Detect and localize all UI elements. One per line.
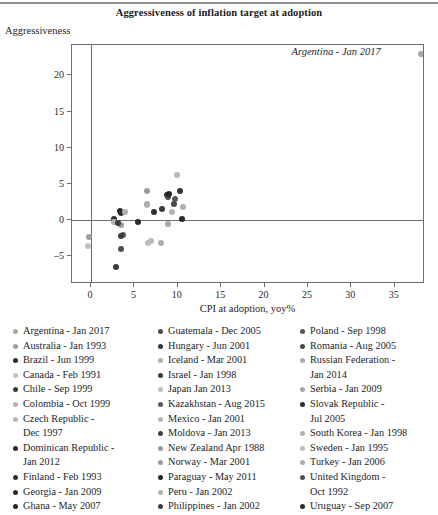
legend-marker-icon bbox=[300, 358, 305, 363]
legend-item-label: Dominican Republic - Jan 2012 bbox=[23, 441, 115, 470]
legend-marker-icon bbox=[300, 446, 305, 451]
legend-column: Guatemala - Dec 2005Hungary - Jun 2001Ic… bbox=[158, 324, 265, 514]
legend-item-label: Uruguay - Sep 2007 bbox=[310, 499, 393, 514]
scatter-point bbox=[177, 188, 183, 194]
legend-marker-icon bbox=[158, 431, 163, 436]
scatter-point bbox=[86, 234, 92, 240]
legend-item[interactable]: Australia - Jan 1993 bbox=[13, 339, 115, 354]
legend-item-label: Japan Jan 2013 bbox=[168, 382, 231, 397]
x-tick-mark bbox=[133, 283, 134, 287]
y-tick-label: 0 bbox=[38, 214, 64, 225]
legend-marker-icon bbox=[158, 417, 163, 422]
x-tick-label: 0 bbox=[75, 289, 105, 300]
legend-marker-icon bbox=[158, 475, 163, 480]
legend-item-label: Norway - Mar 2001 bbox=[168, 455, 250, 470]
legend-item[interactable]: Turkey - Jan 2006 bbox=[300, 455, 407, 470]
legend-item[interactable]: Chile - Sep 1999 bbox=[13, 382, 115, 397]
legend-item[interactable]: Kazakhstan - Aug 2015 bbox=[158, 397, 265, 412]
legend-item[interactable]: Colombia - Oct 1999 bbox=[13, 397, 115, 412]
legend-item[interactable]: Philippines - Jan 2002 bbox=[158, 499, 265, 514]
legend-item[interactable]: Russian Federation - Jan 2014 bbox=[300, 353, 407, 382]
legend-item[interactable]: Finland - Feb 1993 bbox=[13, 470, 115, 485]
legend-item[interactable]: Iceland - Mar 2001 bbox=[158, 353, 265, 368]
x-tick-label: 5 bbox=[118, 289, 148, 300]
legend-item-label: Romania - Aug 2005 bbox=[310, 339, 396, 354]
scatter-point bbox=[179, 216, 185, 222]
legend-marker-icon bbox=[158, 387, 163, 392]
legend-item-label: Chile - Sep 1999 bbox=[23, 382, 93, 397]
x-tick-label: 20 bbox=[249, 289, 279, 300]
legend-marker-icon bbox=[300, 402, 305, 407]
legend-item[interactable]: South Korea - Jan 1998 bbox=[300, 426, 407, 441]
scatter-point bbox=[174, 172, 180, 178]
scatter-point bbox=[171, 201, 177, 207]
legend-marker-icon bbox=[158, 504, 163, 509]
legend-item-label: Israel - Jan 1998 bbox=[168, 368, 236, 383]
x-tick-mark bbox=[350, 283, 351, 287]
y-tick-label: 20 bbox=[38, 69, 64, 80]
legend-item[interactable]: Sweden - Jan 1995 bbox=[300, 441, 407, 456]
legend-marker-icon bbox=[158, 329, 163, 334]
legend-item[interactable]: Czech Republic - Dec 1997 bbox=[13, 412, 115, 441]
legend-marker-icon bbox=[13, 329, 18, 334]
legend-marker-icon bbox=[158, 344, 163, 349]
legend-item[interactable]: Romania - Aug 2005 bbox=[300, 339, 407, 354]
legend-item[interactable]: Brazil - Jun 1999 bbox=[13, 353, 115, 368]
x-tick-mark bbox=[307, 283, 308, 287]
top-rule-divider bbox=[0, 2, 438, 4]
legend-item[interactable]: Moldova - Jan 2013 bbox=[158, 426, 265, 441]
legend-item[interactable]: Hungary - Jun 2001 bbox=[158, 339, 265, 354]
x-tick-label: 30 bbox=[335, 289, 365, 300]
legend-item[interactable]: Norway - Mar 2001 bbox=[158, 455, 265, 470]
legend-item-label: Georgia - Jan 2009 bbox=[23, 485, 101, 500]
legend-marker-icon bbox=[300, 344, 305, 349]
legend-item-label: Kazakhstan - Aug 2015 bbox=[168, 397, 265, 412]
scatter-point bbox=[118, 246, 124, 252]
legend-marker-icon bbox=[13, 373, 18, 378]
legend-item[interactable]: Peru - Jan 2002 bbox=[158, 485, 265, 500]
legend-item[interactable]: Mexico - Jan 2001 bbox=[158, 412, 265, 427]
legend-item-label: Turkey - Jan 2006 bbox=[310, 455, 385, 470]
legend-item[interactable]: Paraguay - May 2011 bbox=[158, 470, 265, 485]
x-tick-label: 25 bbox=[292, 289, 322, 300]
legend-item[interactable]: New Zealand Apr 1988 bbox=[158, 441, 265, 456]
legend-marker-icon bbox=[158, 460, 163, 465]
legend-item[interactable]: Japan Jan 2013 bbox=[158, 382, 265, 397]
legend-marker-icon bbox=[300, 431, 305, 436]
legend-item[interactable]: Canada - Feb 1991 bbox=[13, 368, 115, 383]
legend-marker-icon bbox=[158, 402, 163, 407]
scatter-point bbox=[122, 209, 128, 215]
legend-marker-icon bbox=[13, 344, 18, 349]
y-tick-mark bbox=[67, 147, 71, 148]
legend-item-label: Paraguay - May 2011 bbox=[168, 470, 257, 485]
y-tick-label: 10 bbox=[38, 141, 64, 152]
legend-item[interactable]: Serbia - Jan 2009 bbox=[300, 382, 407, 397]
scatter-point bbox=[113, 264, 119, 270]
legend-marker-icon bbox=[158, 490, 163, 495]
legend-item[interactable]: Poland - Sep 1998 bbox=[300, 324, 407, 339]
x-tick-mark bbox=[394, 283, 395, 287]
scatter-point bbox=[180, 204, 186, 210]
legend-marker-icon bbox=[13, 358, 18, 363]
legend-item[interactable]: Israel - Jan 1998 bbox=[158, 368, 265, 383]
legend-item[interactable]: Dominican Republic - Jan 2012 bbox=[13, 441, 115, 470]
legend-item-label: Hungary - Jun 2001 bbox=[168, 339, 250, 354]
scatter-point bbox=[169, 209, 175, 215]
x-tick-mark bbox=[264, 283, 265, 287]
legend-item[interactable]: Ghana - May 2007 bbox=[13, 499, 115, 514]
legend-item-label: Finland - Feb 1993 bbox=[23, 470, 102, 485]
y-tick-mark bbox=[67, 219, 71, 220]
legend-item-label: Argentina - Jan 2017 bbox=[23, 324, 109, 339]
legend-item[interactable]: Uruguay - Sep 2007 bbox=[300, 499, 407, 514]
legend-item[interactable]: Georgia - Jan 2009 bbox=[13, 485, 115, 500]
legend-item[interactable]: Slovak Republic - Jul 2005 bbox=[300, 397, 407, 426]
legend-item-label: South Korea - Jan 1998 bbox=[310, 426, 407, 441]
legend-item[interactable]: Guatemala - Dec 2005 bbox=[158, 324, 265, 339]
y-tick-mark bbox=[67, 74, 71, 75]
legend-marker-icon bbox=[300, 475, 305, 480]
legend-marker-icon bbox=[300, 329, 305, 334]
legend-item[interactable]: Argentina - Jan 2017 bbox=[13, 324, 115, 339]
legend-item-label: Czech Republic - Dec 1997 bbox=[23, 412, 94, 441]
legend-item[interactable]: United Kingdom - Oct 1992 bbox=[300, 470, 407, 499]
scatter-point bbox=[115, 220, 121, 226]
